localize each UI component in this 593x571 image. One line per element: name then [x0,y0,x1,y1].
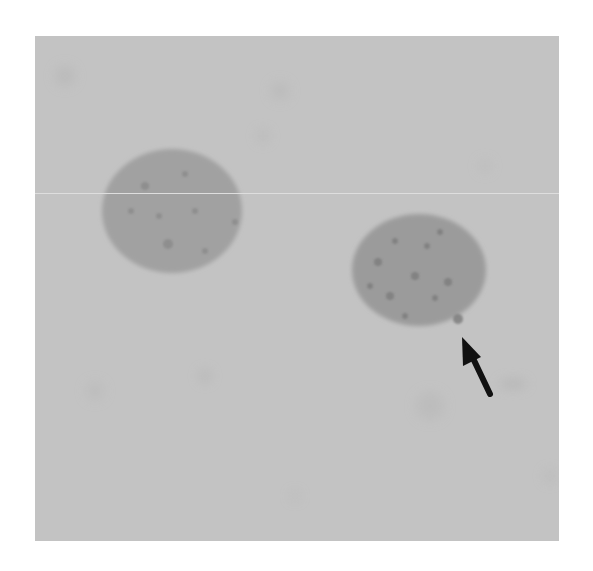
left-cell [102,149,242,273]
micrograph-canvas [35,36,559,541]
micrograph-panel [35,36,559,541]
right-cell [352,214,486,326]
arrow-annotation [462,337,490,394]
scan-line-artifact [35,193,559,194]
